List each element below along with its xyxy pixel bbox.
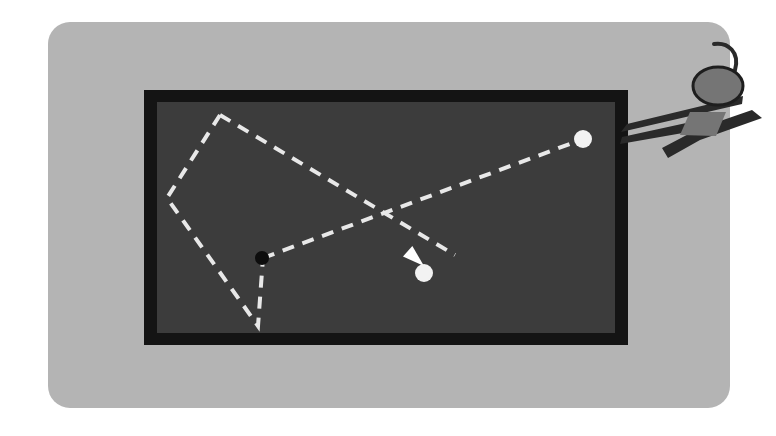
target-dot-white-edge [574, 130, 592, 148]
origin-dot-black [255, 251, 269, 265]
figure-canvas: Person viewing a dark display with dashe… [0, 0, 776, 436]
target-dot-white-center [415, 264, 433, 282]
display-screen [157, 102, 615, 333]
scene-illustration [0, 0, 776, 436]
person-head [693, 67, 743, 105]
